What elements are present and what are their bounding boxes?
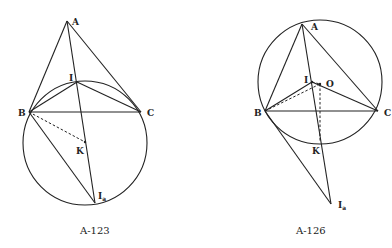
label-ia: Ia bbox=[98, 191, 106, 202]
label-i: I bbox=[69, 73, 73, 83]
figure-a126: A I O B C K Ia A-126 bbox=[254, 20, 391, 236]
segment-ic bbox=[312, 82, 378, 111]
caption: A-126 bbox=[295, 225, 326, 236]
segment-bo-dashed bbox=[265, 84, 320, 111]
label-i: I bbox=[304, 75, 308, 85]
label-o: O bbox=[326, 79, 334, 89]
label-c: C bbox=[384, 108, 391, 118]
segment-ab bbox=[29, 21, 67, 112]
segment-bi bbox=[265, 82, 312, 111]
label-k: K bbox=[312, 146, 321, 156]
label-c: C bbox=[147, 108, 154, 118]
point-k bbox=[84, 141, 86, 143]
label-b: B bbox=[254, 108, 262, 118]
figure-a123: A I B C K Ia A-123 bbox=[18, 17, 154, 236]
segment-a-ia bbox=[302, 24, 331, 204]
label-a: A bbox=[71, 17, 80, 27]
segment-bi bbox=[29, 82, 77, 112]
caption: A-123 bbox=[79, 225, 110, 236]
label-ia: Ia bbox=[338, 200, 346, 211]
label-a: A bbox=[310, 22, 319, 32]
point-o bbox=[319, 83, 321, 85]
segment-b-ia bbox=[29, 112, 95, 203]
segment-bk-dashed bbox=[29, 112, 85, 142]
segment-ic bbox=[77, 82, 141, 112]
point-i bbox=[311, 81, 313, 83]
segment-ab bbox=[265, 24, 302, 111]
diagram-canvas: A I B C K Ia A-123 A I O B C K Ia A-126 bbox=[0, 0, 392, 248]
label-k: K bbox=[76, 146, 85, 156]
segment-ac bbox=[67, 21, 141, 112]
segment-b-ia bbox=[265, 111, 331, 204]
label-b: B bbox=[18, 108, 26, 118]
